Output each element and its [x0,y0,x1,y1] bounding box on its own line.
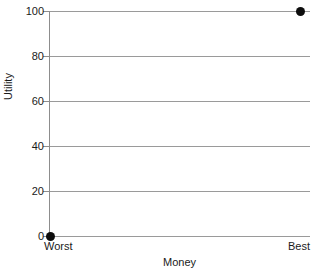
y-tick-mark-100 [43,11,50,12]
gridline-60 [49,101,310,102]
y-tick-mark-80 [43,56,50,57]
gridline-100 [49,11,310,12]
y-tick-mark-60 [43,101,50,102]
y-tick-mark-20 [43,191,50,192]
x-axis-title: Money [49,256,310,268]
x-tick-label-best: Best [288,240,310,252]
y-axis-line [49,11,50,236]
y-tick-label-60: 60 [32,96,44,107]
data-point-best [296,7,305,16]
y-tick-label-100: 100 [26,6,44,17]
gridline-80 [49,56,310,57]
y-tick-label-80: 80 [32,51,44,62]
gridline-20 [49,191,310,192]
x-tick-label-worst: Worst [44,240,73,252]
y-tick-label-40: 40 [32,141,44,152]
gridline-40 [49,146,310,147]
y-tick-label-20: 20 [32,186,44,197]
y-tick-mark-40 [43,146,50,147]
utility-money-chart: 100 80 60 40 20 0 Worst Best Money Utili… [0,0,318,275]
y-axis-title: Utility [2,86,14,100]
x-axis-line [49,236,310,237]
